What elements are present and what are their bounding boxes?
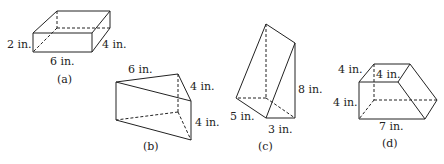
caption-c: (c) bbox=[258, 141, 273, 152]
label-c-slant: 5 in. bbox=[230, 111, 255, 122]
label-b-top-side: 4 in. bbox=[190, 81, 215, 92]
caption-b: (b) bbox=[143, 141, 159, 152]
label-a-height: 2 in. bbox=[7, 39, 32, 50]
caption-a: (a) bbox=[57, 74, 72, 85]
label-b-height: 4 in. bbox=[195, 117, 220, 128]
label-d-top-inner: 4 in. bbox=[376, 69, 401, 80]
label-d-height: 4 in. bbox=[333, 97, 358, 108]
label-c-base: 3 in. bbox=[268, 124, 293, 135]
prism-figures-diagram: 2 in. 4 in. 6 in. (a) 6 in. 4 in. 4 in. … bbox=[0, 0, 444, 164]
label-b-length: 6 in. bbox=[128, 64, 153, 75]
label-d-base: 7 in. bbox=[379, 121, 404, 132]
label-a-depth: 4 in. bbox=[102, 39, 127, 50]
figure-b-prism bbox=[116, 74, 191, 140]
figure-c-prism bbox=[236, 24, 295, 118]
label-c-height: 8 in. bbox=[298, 84, 323, 95]
figure-a-box bbox=[33, 11, 110, 52]
label-a-width: 6 in. bbox=[50, 56, 75, 67]
caption-d: (d) bbox=[382, 138, 398, 149]
label-d-top-left: 4 in. bbox=[338, 64, 363, 75]
